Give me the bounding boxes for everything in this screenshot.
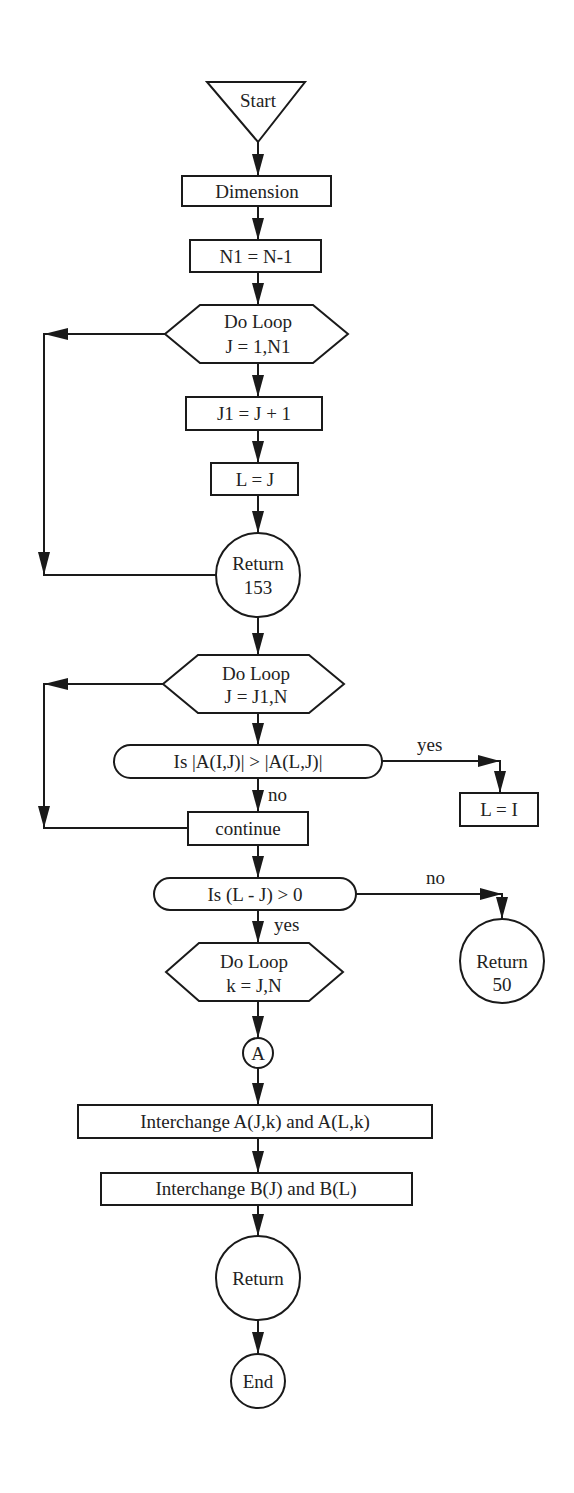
return50-line2: 50 <box>493 974 512 995</box>
node-connector-a: A <box>243 1038 273 1068</box>
interchange-b-label: Interchange B(J) and B(L) <box>155 1178 356 1200</box>
start-label: Start <box>240 90 277 111</box>
node-n1-assign: N1 = N-1 <box>190 240 321 272</box>
node-decision-abs-compare: Is |A(I,J)| > |A(L,J)| <box>114 745 382 778</box>
node-start: Start <box>207 82 305 142</box>
node-do-loop-3: Do Loop k = J,N <box>166 943 343 1001</box>
node-l-equals-i: L = I <box>460 793 538 826</box>
return153-line2: 153 <box>244 577 273 598</box>
return-label: Return <box>232 1268 284 1289</box>
node-return: Return <box>216 1236 300 1320</box>
dimension-label: Dimension <box>215 181 299 202</box>
connector-a-label: A <box>251 1043 265 1064</box>
node-interchange-b: Interchange B(J) and B(L) <box>101 1173 412 1205</box>
node-continue: continue <box>188 812 308 845</box>
n1-label: N1 = N-1 <box>220 246 293 267</box>
loop1-line2: J = 1,N1 <box>225 336 290 357</box>
loop2-line1: Do Loop <box>222 663 290 684</box>
decision2-yes-label: yes <box>274 914 299 935</box>
decision1-yes-label: yes <box>417 734 442 755</box>
decision2-no-label: no <box>426 867 445 888</box>
lj-label: L = J <box>236 469 275 490</box>
node-dimension: Dimension <box>182 176 331 206</box>
flowchart: Start Dimension N1 = N-1 Do Loop J = 1,N… <box>0 0 574 1493</box>
loop3-line2: k = J,N <box>226 975 282 996</box>
node-return-50: Return 50 <box>460 919 544 1003</box>
node-return-153: Return 153 <box>216 533 300 617</box>
node-interchange-a: Interchange A(J,k) and A(L,k) <box>78 1105 432 1138</box>
node-decision-l-minus-j: Is (L - J) > 0 <box>154 878 356 910</box>
node-do-loop-2: Do Loop J = J1,N <box>163 655 344 713</box>
j1-label: J1 = J + 1 <box>217 403 291 424</box>
return153-line1: Return <box>232 553 284 574</box>
decision1-label: Is |A(I,J)| > |A(L,J)| <box>174 751 323 773</box>
continue-label: continue <box>215 818 280 839</box>
end-label: End <box>243 1371 274 1392</box>
node-j1-assign: J1 = J + 1 <box>186 397 322 430</box>
decision1-no-label: no <box>268 784 287 805</box>
node-end: End <box>231 1354 285 1408</box>
interchange-a-label: Interchange A(J,k) and A(L,k) <box>140 1111 370 1133</box>
node-l-equals-j: L = J <box>211 463 298 495</box>
loop3-line1: Do Loop <box>220 951 288 972</box>
loop1-line1: Do Loop <box>224 311 292 332</box>
li-label: L = I <box>480 799 517 820</box>
return50-line1: Return <box>476 951 528 972</box>
loop2-line2: J = J1,N <box>225 686 288 707</box>
node-do-loop-1: Do Loop J = 1,N1 <box>165 305 348 363</box>
decision2-label: Is (L - J) > 0 <box>208 884 303 906</box>
